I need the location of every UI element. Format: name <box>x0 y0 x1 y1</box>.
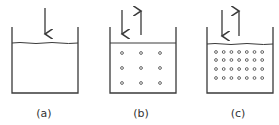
panel-label-c: (c) <box>231 107 246 120</box>
panel-label-b: (b) <box>133 107 149 120</box>
particles-b <box>121 52 162 85</box>
container-a <box>12 27 78 93</box>
particles-c <box>215 51 264 80</box>
liquid-surface-a <box>12 43 78 44</box>
container-b <box>110 27 176 93</box>
panel-b: (b) <box>110 10 176 120</box>
panel-label-a: (a) <box>36 107 51 120</box>
diagram-canvas: (a) (b) (c) <box>0 0 279 125</box>
panel-a: (a) <box>12 8 78 120</box>
container-c <box>207 27 273 93</box>
panel-c: (c) <box>207 10 273 120</box>
liquid-surface-c <box>207 44 273 45</box>
